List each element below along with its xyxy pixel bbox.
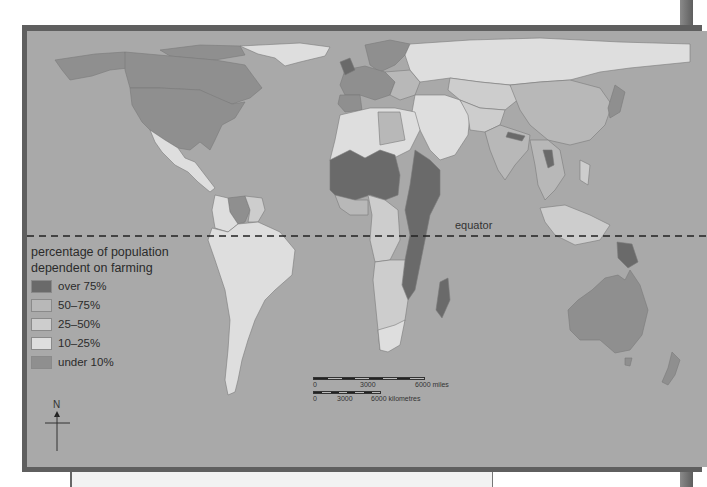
region-central-africa <box>368 195 400 262</box>
legend-swatch <box>31 318 52 331</box>
legend-item-under-10: under 10% <box>31 353 169 371</box>
scale-label: 3000 <box>360 381 376 388</box>
region-russia <box>405 38 690 85</box>
region-indonesia <box>540 205 610 245</box>
scale-labels-miles: 0 3000 6000 miles <box>313 380 453 390</box>
scale-label: 6000 miles <box>415 381 449 388</box>
region-tasmania <box>625 358 632 366</box>
north-label: N <box>53 399 60 410</box>
region-greenland <box>240 43 330 66</box>
scale-label: 6000 kilometres <box>371 395 420 402</box>
legend-label: under 10% <box>58 356 114 368</box>
legend: percentage of population dependent on fa… <box>31 244 169 371</box>
legend-swatch <box>31 337 52 350</box>
region-east-africa <box>402 150 440 300</box>
legend-title-line1: percentage of population <box>31 244 169 260</box>
region-japan <box>608 85 625 118</box>
region-alaska <box>55 52 128 80</box>
region-new-zealand <box>662 352 680 385</box>
region-middle-east <box>412 95 470 160</box>
legend-item-50-75: 50–75% <box>31 296 169 314</box>
equator-label: equator <box>455 219 492 231</box>
legend-title-line2: dependent on farming <box>31 260 169 276</box>
legend-label: 50–75% <box>58 299 100 311</box>
region-philippines <box>580 160 590 185</box>
region-iberia <box>338 95 362 112</box>
underlying-page <box>70 470 493 487</box>
scale-bar: 0 3000 6000 miles 0 3000 6000 kilometres <box>313 377 453 404</box>
north-arrow: N <box>43 399 73 455</box>
legend-label: 10–25% <box>58 337 100 349</box>
legend-item-25-50: 25–50% <box>31 315 169 333</box>
region-scandinavia <box>365 40 410 72</box>
scale-label: 0 <box>313 395 317 402</box>
region-madagascar <box>436 278 450 318</box>
legend-swatch <box>31 280 52 293</box>
north-arrow-icon <box>43 411 73 467</box>
region-south-america <box>208 222 295 395</box>
scale-labels-km: 0 3000 6000 kilometres <box>313 394 453 404</box>
scale-label: 0 <box>313 381 317 388</box>
legend-swatch <box>31 299 52 312</box>
region-libya <box>378 112 405 145</box>
legend-label: 25–50% <box>58 318 100 330</box>
region-australia <box>568 270 648 353</box>
legend-item-10-25: 10–25% <box>31 334 169 352</box>
region-southeast-asia <box>530 140 565 200</box>
legend-swatch <box>31 356 52 369</box>
scale-label: 3000 <box>337 395 353 402</box>
legend-label: over 75% <box>58 280 107 292</box>
legend-item-over-75: over 75% <box>31 277 169 295</box>
region-png <box>617 242 638 268</box>
